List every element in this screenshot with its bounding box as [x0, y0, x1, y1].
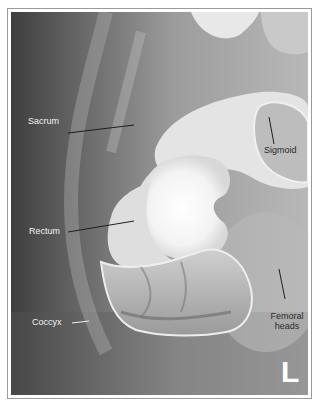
label-coccyx: Coccyx: [32, 317, 62, 327]
side-marker-left: L: [281, 357, 299, 387]
label-femoral-heads-line2: heads: [267, 321, 307, 331]
label-rectum: Rectum: [29, 226, 60, 236]
xray-graphic: [11, 12, 308, 395]
label-femoral-heads-line1: Femoral: [267, 311, 307, 321]
label-sacrum: Sacrum: [28, 116, 59, 126]
label-femoral-heads: Femoral heads: [267, 311, 307, 331]
label-sigmoid: Sigmoid: [264, 145, 297, 155]
xray-image: Sacrum Sigmoid Rectum Coccyx Femoral hea…: [11, 12, 308, 395]
